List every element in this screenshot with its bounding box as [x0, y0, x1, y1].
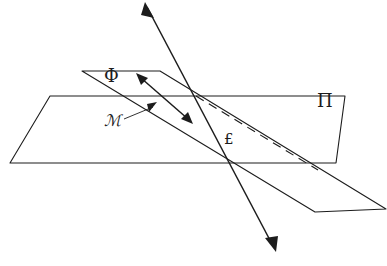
- figure-canvas: Φ Π ℳ £: [0, 0, 387, 266]
- label-plane-pi: Π: [317, 92, 333, 110]
- transversal-arrowhead-top: [141, 2, 154, 18]
- label-plane-phi: Φ: [104, 67, 119, 85]
- geometry-drawing: [0, 0, 387, 266]
- plane-phi-outline: [82, 71, 386, 212]
- transversal-arrowhead-bottom: [265, 236, 278, 252]
- transversal-line: [147, 7, 272, 244]
- m-leader-arrowhead: [147, 102, 157, 112]
- label-point-l: £: [224, 132, 234, 147]
- label-manifold-m: ℳ: [104, 113, 121, 129]
